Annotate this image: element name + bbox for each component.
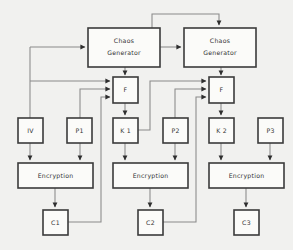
f2-label: F bbox=[220, 86, 224, 93]
wire-cg1-to-cg2 bbox=[152, 14, 219, 28]
p1-label: P1 bbox=[75, 127, 83, 134]
p2-label: P2 bbox=[171, 127, 179, 134]
node-c3[interactable]: C3 bbox=[234, 210, 259, 235]
node-iv[interactable]: IV bbox=[18, 118, 43, 143]
wire-p1-to-f1 bbox=[80, 89, 110, 118]
encryption-3-label: Encryption bbox=[229, 172, 265, 180]
chaos-generator-2-label-line2: Generator bbox=[203, 49, 237, 56]
node-chaos-generator-1[interactable]: Chaos Generator bbox=[88, 28, 160, 67]
f1-label: F bbox=[124, 86, 128, 93]
node-k2[interactable]: K 2 bbox=[209, 118, 234, 143]
wire-c2-to-f2 bbox=[163, 97, 206, 222]
k1-label: K 1 bbox=[120, 127, 131, 134]
node-encryption-2[interactable]: Encryption bbox=[113, 163, 188, 188]
encryption-2-label: Encryption bbox=[133, 172, 169, 180]
node-k1[interactable]: K 1 bbox=[113, 118, 138, 143]
node-f1[interactable]: F bbox=[113, 77, 138, 103]
node-c1[interactable]: C1 bbox=[43, 210, 68, 235]
encryption-1-label: Encryption bbox=[38, 172, 74, 180]
c2-label: C2 bbox=[146, 219, 155, 226]
chaos-generator-2-label-line1: Chaos bbox=[210, 37, 230, 44]
p3-label: P3 bbox=[266, 127, 274, 134]
node-p3[interactable]: P3 bbox=[258, 118, 283, 143]
node-c2[interactable]: C2 bbox=[138, 210, 163, 235]
node-f2[interactable]: F bbox=[209, 77, 234, 103]
diagram-canvas: Chaos Generator Chaos Generator F F IV P… bbox=[0, 0, 293, 250]
node-encryption-3[interactable]: Encryption bbox=[209, 163, 284, 188]
c3-label: C3 bbox=[242, 219, 251, 226]
wire-c1-to-f1 bbox=[67, 97, 110, 222]
chaos-generator-1-label-line2: Generator bbox=[107, 49, 141, 56]
node-p1[interactable]: P1 bbox=[67, 118, 92, 143]
wire-p2-to-f2 bbox=[175, 89, 206, 118]
node-encryption-1[interactable]: Encryption bbox=[18, 163, 93, 188]
iv-label: IV bbox=[27, 127, 34, 134]
c1-label: C1 bbox=[51, 219, 60, 226]
cipher-block-diagram: Chaos Generator Chaos Generator F F IV P… bbox=[0, 0, 293, 250]
node-p2[interactable]: P2 bbox=[163, 118, 188, 143]
node-chaos-generator-2[interactable]: Chaos Generator bbox=[184, 28, 256, 67]
k2-label: K 2 bbox=[216, 127, 227, 134]
chaos-generator-1-label-line1: Chaos bbox=[114, 37, 134, 44]
